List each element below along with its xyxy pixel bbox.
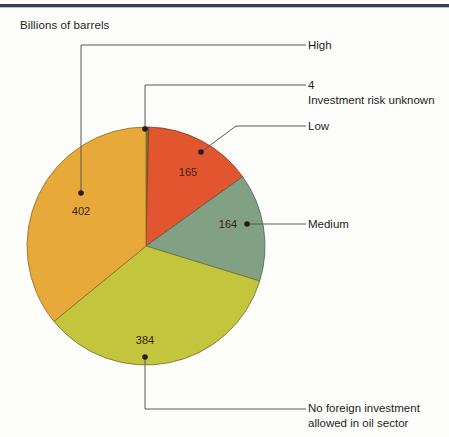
leader-dot-low xyxy=(198,149,204,155)
callout-investment-risk-unknown-label: Investment risk unknown xyxy=(308,93,435,108)
slice-value-high: 402 xyxy=(72,205,90,217)
callout-investment-risk-unknown-value: 4 xyxy=(308,78,314,93)
leader-dot-medium xyxy=(244,221,250,227)
leader-dot-investment-risk-unknown xyxy=(142,126,148,132)
callout-no-foreign-investment-line2: allowed in oil sector xyxy=(308,416,408,431)
leader-dot-no-foreign-investment xyxy=(142,354,148,360)
callout-high: High xyxy=(308,38,332,53)
callout-no-foreign-investment-line1: No foreign investment xyxy=(308,401,420,416)
callout-low: Low xyxy=(308,119,329,134)
leader-line-no-foreign-investment xyxy=(145,357,306,409)
leader-line-investment-risk-unknown xyxy=(145,85,306,129)
slice-value-medium: 164 xyxy=(219,218,237,230)
chart-figure: Billions of barrels xyxy=(0,0,449,437)
callout-medium: Medium xyxy=(308,217,349,232)
pie-chart-svg: 402 165 164 384 xyxy=(0,0,449,437)
leader-dot-high xyxy=(78,190,84,196)
pie-slices xyxy=(27,127,265,365)
leader-line-low xyxy=(201,126,306,152)
slice-value-low: 165 xyxy=(179,166,197,178)
slice-value-no-foreign-investment: 384 xyxy=(136,334,154,346)
